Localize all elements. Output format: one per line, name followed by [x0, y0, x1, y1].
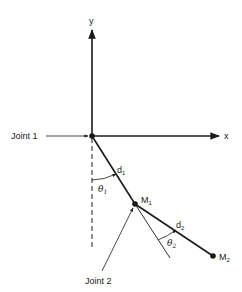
- mass-1-label: M1: [141, 195, 153, 206]
- diagram-canvas: y x Joint 1 d1 θ1 M1 d2 θ2 M2 Joint 2: [0, 0, 242, 292]
- y-axis-label: y: [89, 16, 94, 26]
- theta-1-arc: [92, 174, 116, 180]
- joint-2-pointer: [102, 208, 133, 271]
- d2-label: d2: [176, 220, 185, 231]
- link-1-extension-line: [135, 204, 170, 258]
- x-axis-label: x: [224, 131, 229, 141]
- joint-1-label: Joint 1: [11, 131, 38, 141]
- d1-label: d1: [117, 165, 126, 176]
- theta-1-label: θ1: [98, 184, 107, 195]
- mass-2-label: M2: [219, 252, 231, 263]
- theta-2-label: θ2: [167, 238, 176, 249]
- joint-2-label: Joint 2: [85, 276, 112, 286]
- mass-2-dot: [210, 253, 216, 259]
- mass-1-dot: [132, 201, 138, 207]
- joint-1-pivot: [89, 133, 95, 139]
